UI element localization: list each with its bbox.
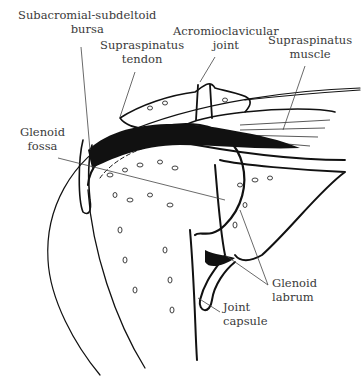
- leader-fossa: [58, 158, 225, 200]
- leader-labrum-2: [240, 210, 268, 285]
- leader-capsule: [198, 298, 220, 312]
- leader-ac-joint: [200, 57, 215, 82]
- label-subacromial-subdeltoid-bursa: Subacromial-subdeltoid bursa: [18, 8, 156, 36]
- leader-bursa: [81, 47, 90, 150]
- tendon-mass: [88, 124, 300, 168]
- label-acromioclavicular-joint: Acromioclavicular joint: [173, 24, 279, 52]
- label-glenoid-labrum: Glenoid labrum: [272, 276, 317, 304]
- leader-muscle: [283, 66, 305, 130]
- label-glenoid-fossa: Glenoid fossa: [20, 125, 65, 153]
- label-joint-capsule: Joint capsule: [223, 300, 267, 328]
- shoulder-anatomy-diagram: Subacromial-subdeltoid bursa Supraspinat…: [0, 0, 364, 388]
- label-supraspinatus-tendon: Supraspinatus tendon: [100, 38, 184, 66]
- label-supraspinatus-muscle: Supraspinatus muscle: [268, 33, 352, 61]
